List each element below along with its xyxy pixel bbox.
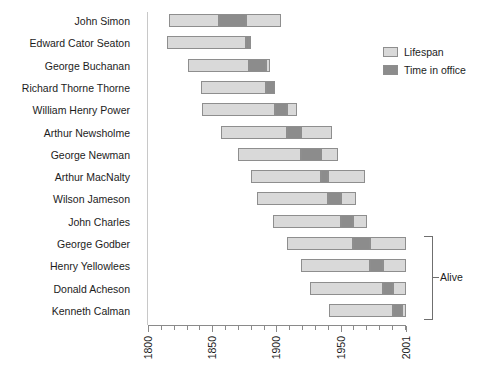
lifespan-segment-after-office bbox=[266, 59, 270, 72]
x-axis-major-tick bbox=[341, 326, 342, 332]
bar-row bbox=[148, 14, 406, 27]
time-in-office-segment bbox=[341, 215, 354, 228]
x-axis-tick-label: 1950 bbox=[335, 336, 347, 359]
legend-label: Lifespan bbox=[404, 46, 444, 58]
category-label: John Simon bbox=[75, 16, 130, 27]
plot-area bbox=[148, 12, 406, 324]
x-axis-minor-tick bbox=[264, 326, 265, 330]
lifespan-segment-after-office bbox=[328, 170, 365, 183]
category-label: Donald Acheson bbox=[54, 284, 130, 295]
time-in-office-segment bbox=[287, 126, 301, 139]
bar-row bbox=[148, 59, 406, 72]
lifespan-segment-before-office bbox=[301, 259, 370, 272]
lifespan-segment-after-office bbox=[383, 259, 406, 272]
x-axis-tick-label: 1850 bbox=[206, 336, 218, 359]
x-axis-minor-tick bbox=[379, 326, 380, 330]
lifespan-segment-after-office bbox=[370, 237, 406, 250]
x-axis-minor-tick bbox=[366, 326, 367, 330]
x-axis-minor-tick bbox=[251, 326, 252, 330]
bar-row bbox=[148, 148, 406, 161]
category-label: George Newman bbox=[51, 150, 130, 161]
lifespan-segment-after-office bbox=[246, 14, 282, 27]
lifespan-segment-before-office bbox=[169, 14, 219, 27]
bar-row bbox=[148, 237, 406, 250]
time-in-office-segment bbox=[275, 103, 287, 116]
legend-swatch-office bbox=[383, 65, 398, 75]
x-axis-major-tick bbox=[276, 326, 277, 332]
bar-row bbox=[148, 36, 406, 49]
category-label: George Buchanan bbox=[45, 61, 130, 72]
lifespan-segment-before-office bbox=[201, 81, 266, 94]
x-axis-major-tick bbox=[212, 326, 213, 332]
lifespan-segment-before-office bbox=[202, 103, 275, 116]
x-axis-minor-tick bbox=[302, 326, 303, 330]
legend-label: Time in office bbox=[404, 64, 466, 76]
lifespan-segment-before-office bbox=[238, 148, 301, 161]
legend-swatch-lifespan bbox=[383, 47, 398, 57]
chart-legend: LifespanTime in office bbox=[383, 44, 466, 80]
x-axis-minor-tick bbox=[199, 326, 200, 330]
category-label: Arthur MacNalty bbox=[55, 172, 130, 183]
time-in-office-segment bbox=[249, 59, 266, 72]
lifespan-segment-before-office bbox=[257, 192, 328, 205]
category-label: George Godber bbox=[57, 239, 130, 250]
bar-row bbox=[148, 126, 406, 139]
lifespan-segment-after-office bbox=[287, 103, 297, 116]
time-in-office-segment bbox=[301, 148, 322, 161]
x-axis-minor-tick bbox=[161, 326, 162, 330]
lifespan-segment-before-office bbox=[273, 215, 341, 228]
time-in-office-segment bbox=[370, 259, 383, 272]
x-axis-major-tick bbox=[406, 326, 407, 332]
bar-row bbox=[148, 170, 406, 183]
category-label: Richard Thorne Thorne bbox=[22, 83, 130, 94]
x-axis-tick-label: 2001 bbox=[400, 336, 412, 359]
bar-row bbox=[148, 215, 406, 228]
time-in-office-segment bbox=[383, 282, 393, 295]
lifespan-segment-after-office bbox=[393, 282, 406, 295]
x-axis-minor-tick bbox=[353, 326, 354, 330]
alive-bracket-label: Alive bbox=[440, 271, 463, 283]
category-label: William Henry Power bbox=[33, 105, 130, 116]
lifespan-segment-before-office bbox=[188, 59, 250, 72]
legend-item[interactable]: Lifespan bbox=[383, 44, 466, 60]
x-axis-minor-tick bbox=[289, 326, 290, 330]
time-in-office-segment bbox=[328, 192, 341, 205]
category-label: Kenneth Calman bbox=[52, 306, 130, 317]
bar-row bbox=[148, 259, 406, 272]
bar-row bbox=[148, 103, 406, 116]
x-axis-minor-tick bbox=[392, 326, 393, 330]
lifespan-segment-after-office bbox=[321, 148, 338, 161]
figure-caption bbox=[14, 368, 274, 379]
x-axis-major-tick bbox=[148, 326, 149, 332]
x-axis-minor-tick bbox=[174, 326, 175, 330]
lifespan-segment-before-office bbox=[310, 282, 383, 295]
bar-row bbox=[148, 304, 406, 317]
lifespan-segment-after-office bbox=[341, 192, 356, 205]
lifespan-segment-before-office bbox=[221, 126, 286, 139]
category-label: Henry Yellowlees bbox=[50, 261, 130, 272]
x-axis-minor-tick bbox=[328, 326, 329, 330]
category-label: John Charles bbox=[68, 217, 130, 228]
alive-bracket bbox=[424, 236, 433, 320]
lifespan-segment-after-office bbox=[249, 36, 251, 49]
lifespan-segment-after-office bbox=[402, 304, 406, 317]
x-axis-tick-label: 1900 bbox=[270, 336, 282, 359]
lifespan-segment-before-office bbox=[329, 304, 393, 317]
x-axis-minor-tick bbox=[187, 326, 188, 330]
time-in-office-segment bbox=[219, 14, 246, 27]
lifespan-segment-before-office bbox=[287, 237, 354, 250]
lifespan-segment-before-office bbox=[167, 36, 245, 49]
category-label: Wilson Jameson bbox=[53, 194, 130, 205]
x-axis-minor-tick bbox=[315, 326, 316, 330]
bar-row bbox=[148, 282, 406, 295]
time-in-office-segment bbox=[353, 237, 370, 250]
legend-item[interactable]: Time in office bbox=[383, 62, 466, 78]
category-label: Edward Cator Seaton bbox=[30, 38, 130, 49]
lifespan-segment-after-office bbox=[353, 215, 367, 228]
x-axis-minor-tick bbox=[225, 326, 226, 330]
bar-row bbox=[148, 192, 406, 205]
lifespan-segment-before-office bbox=[251, 170, 322, 183]
time-in-office-segment bbox=[266, 81, 275, 94]
bar-row bbox=[148, 81, 406, 94]
alive-bracket-tick bbox=[433, 277, 439, 278]
